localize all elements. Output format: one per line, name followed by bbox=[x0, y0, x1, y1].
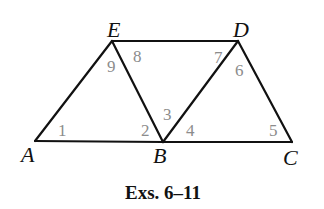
vertex-label-d: D bbox=[232, 17, 249, 42]
vertex-label-b: B bbox=[153, 143, 166, 168]
vertex-label-e: E bbox=[106, 17, 121, 42]
segment-ab bbox=[35, 141, 163, 142]
figure-caption: Exs. 6–11 bbox=[125, 182, 201, 203]
angle-label-3: 3 bbox=[163, 105, 172, 124]
segment-dc bbox=[238, 41, 292, 142]
angle-label-7: 7 bbox=[214, 48, 223, 67]
vertex-label-c: C bbox=[283, 145, 298, 170]
angle-label-8: 8 bbox=[133, 47, 142, 66]
segment-ae bbox=[35, 41, 112, 141]
angle-labels: 1 2 3 4 5 6 7 8 9 bbox=[58, 47, 278, 140]
angle-label-2: 2 bbox=[141, 121, 150, 140]
vertex-label-a: A bbox=[19, 142, 35, 167]
angle-label-1: 1 bbox=[58, 121, 67, 140]
segment-bd bbox=[163, 41, 238, 142]
segments bbox=[35, 41, 292, 142]
angle-label-4: 4 bbox=[186, 121, 195, 140]
angle-label-5: 5 bbox=[269, 121, 278, 140]
angle-label-6: 6 bbox=[235, 61, 244, 80]
geometry-figure: E D A B C 1 2 3 4 5 6 7 8 9 Exs. 6–11 bbox=[0, 0, 324, 209]
angle-label-9: 9 bbox=[107, 57, 116, 76]
